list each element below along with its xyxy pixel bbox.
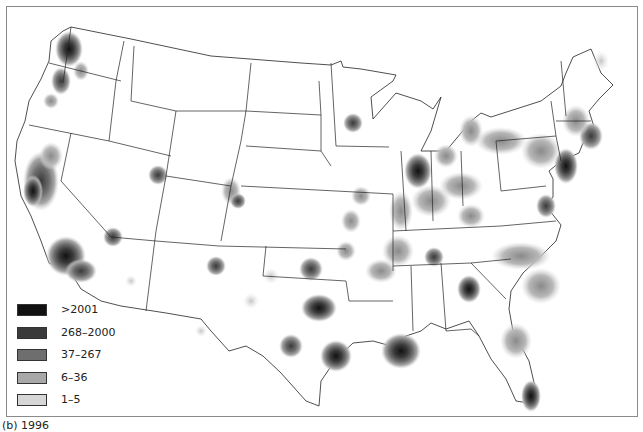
legend-swatch [17, 349, 47, 361]
legend-swatch [17, 372, 47, 384]
legend-label: 37–267 [61, 348, 102, 361]
legend-swatch [17, 304, 47, 316]
legend-label: 268–2000 [61, 326, 116, 339]
map-frame: >2001 268–2000 37–267 6–36 1–5 [6, 6, 638, 417]
legend-label: >2001 [61, 303, 98, 316]
legend-swatch [17, 327, 47, 339]
legend-item: 6–36 [17, 372, 127, 385]
legend-label: 1–5 [61, 393, 81, 406]
legend-label: 6–36 [61, 371, 88, 384]
legend-item: 1–5 [17, 394, 127, 407]
legend-item: 268–2000 [17, 327, 127, 340]
legend-swatch [17, 394, 47, 406]
legend-item: 37–267 [17, 349, 127, 362]
figure-caption: (b) 1996 [2, 419, 49, 432]
legend-item: >2001 [17, 304, 127, 317]
